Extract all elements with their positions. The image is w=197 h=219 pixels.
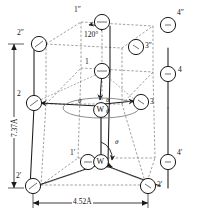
atom-label-2: 2 <box>17 90 21 98</box>
theta-label-center-left: θ <box>78 98 81 105</box>
atom-1-double-prime <box>94 14 109 29</box>
width-dimension-label: 4.52Å <box>72 197 93 206</box>
atom-label-3-prime: 3′ <box>157 181 162 189</box>
theta-label-center-upper-right: θ <box>106 97 109 104</box>
atom-label-3: 3 <box>150 98 154 106</box>
mid-layer-bonds <box>41 71 134 106</box>
theta-label-bottom: θ <box>115 139 118 146</box>
atom-2-prime <box>25 178 40 193</box>
atom-2 <box>26 95 41 110</box>
atom-label-2-double-prime: 2″ <box>17 29 24 37</box>
height-dimension-line <box>8 44 24 188</box>
atom-label-1: 1 <box>85 58 89 66</box>
atom-2-double-prime <box>31 36 46 51</box>
mid-layer-dashed-bonds <box>40 72 135 100</box>
atom-3 <box>133 94 148 109</box>
atom-label-3-double-prime: 3″ <box>145 42 152 50</box>
atom-label-4-double-prime: 4″ <box>177 9 184 17</box>
atom-label-4-prime: 4′ <box>177 149 182 157</box>
atom-4-double-prime <box>160 17 175 32</box>
atom-label-1-double-prime: 1″ <box>74 6 81 14</box>
atom-label-1-prime: 1′ <box>70 149 75 157</box>
atom-3-prime <box>140 178 155 193</box>
atom-4-prime <box>160 154 175 169</box>
height-dimension-label: 7.37Å <box>10 117 19 138</box>
atom-4 <box>160 66 175 81</box>
atom-label-2-prime: 2′ <box>16 172 21 180</box>
atom-3-double-prime <box>128 39 143 54</box>
angle-120-label: 120° <box>84 31 98 39</box>
atom-1 <box>94 63 109 78</box>
theta-label-center-lower-right: θ <box>106 108 109 115</box>
center-tungsten-label: W <box>97 106 105 114</box>
atom-label-4: 4 <box>178 66 182 74</box>
bottom-tungsten-label: W <box>97 158 105 166</box>
